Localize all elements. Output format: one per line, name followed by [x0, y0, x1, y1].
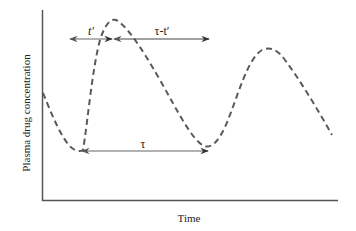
pharmacokinetic-chart: t′ τ-t′ τ Time Plasma drug concentration: [0, 0, 356, 231]
tau-minus-t-prime-label: τ-t′: [155, 24, 170, 38]
x-axis-label: Time: [178, 212, 201, 224]
tau-label: τ: [141, 137, 146, 151]
t-prime-label: t′: [88, 24, 94, 38]
y-axis-label: Plasma drug concentration: [20, 54, 32, 172]
chart-canvas: t′ τ-t′ τ Time Plasma drug concentration: [0, 0, 356, 231]
